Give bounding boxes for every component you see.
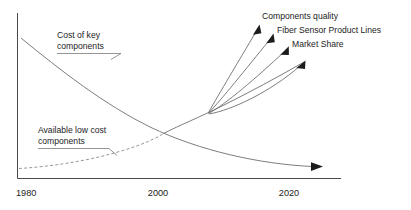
available-label-line1: Available low cost	[38, 125, 107, 135]
fan-arrow-head-3	[280, 46, 289, 55]
available-annotation-group: Available low cost components	[38, 125, 117, 156]
cost-label-leader-line	[57, 54, 121, 60]
x-tick-label-1980: 1980	[16, 188, 36, 198]
increasing-trend-line-solid	[164, 62, 305, 134]
cost-annotation-group: Cost of key components	[57, 30, 121, 60]
x-tick-label-2000: 2000	[148, 188, 168, 198]
label-fiber-sensor-product-lines: Fiber Sensor Product Lines	[277, 25, 381, 35]
cost-label-line1: Cost of key	[57, 30, 101, 40]
cost-label-line2: components	[57, 41, 104, 51]
decreasing-curve-arrowhead	[311, 162, 323, 171]
fan-arrow-line-2	[209, 40, 270, 113]
chart-figure: Cost of key components Available low cos…	[0, 0, 411, 210]
x-tick-label-2020: 2020	[279, 188, 299, 198]
fan-arrow-fiber-sensor-product-lines	[209, 34, 275, 114]
fan-arrow-head-1	[253, 25, 261, 35]
fan-arrow-head-4	[296, 61, 305, 70]
fan-arrow-market-share	[209, 46, 289, 113]
chart-canvas: Cost of key components Available low cos…	[0, 0, 411, 210]
fan-arrow-line-4	[209, 66, 300, 114]
fan-arrow-head-2	[266, 34, 275, 44]
available-label-leader-line	[38, 149, 117, 156]
fan-arrow-labels-group: Components quality Fiber Sensor Product …	[262, 11, 381, 49]
available-low-cost-components-curve	[19, 62, 304, 169]
label-market-share: Market Share	[292, 39, 344, 49]
label-components-quality: Components quality	[262, 11, 339, 21]
available-label-line2: components	[38, 136, 85, 146]
x-axis-tick-labels: 1980 2000 2020	[16, 188, 299, 198]
decreasing-trend-line	[21, 38, 312, 167]
fan-arrow-line-3	[209, 52, 285, 114]
